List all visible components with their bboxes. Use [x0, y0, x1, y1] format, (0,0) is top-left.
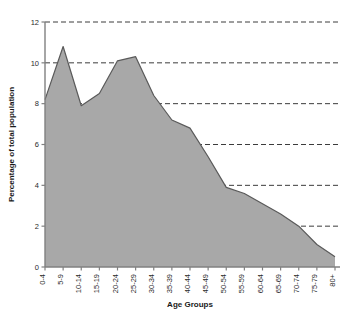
y-tick-label-10: 10 [31, 59, 39, 68]
x-tick-label-15: 75-79 [310, 274, 319, 293]
x-tick-label-16: 80+ [328, 273, 337, 286]
y-tick-label-8: 8 [35, 99, 39, 108]
x-tick-label-0: 0-4 [38, 274, 47, 285]
y-tick-label-12: 12 [31, 18, 39, 27]
x-tick-label-12: 60-64 [256, 274, 265, 293]
y-tick-label-0: 0 [35, 263, 39, 272]
x-tick-label-7: 35-39 [165, 274, 174, 293]
y-axis-title: Percentage of total population [7, 87, 16, 202]
x-tick-label-13: 65-69 [274, 274, 283, 293]
x-tick-label-6: 30-34 [147, 274, 156, 293]
x-tick-label-5: 25-29 [129, 274, 138, 293]
x-axis-title: Age Groups [167, 300, 213, 309]
y-tick-label-6: 6 [35, 140, 39, 149]
y-tick-label-2: 2 [35, 222, 39, 231]
chart-canvas: 0246810120-45-910-1415-1920-2425-2930-34… [0, 0, 360, 322]
x-tick-label-4: 20-24 [111, 274, 120, 293]
x-tick-label-11: 55-59 [237, 274, 246, 293]
x-tick-label-1: 5-9 [56, 274, 65, 285]
series-area-fill [45, 47, 335, 268]
y-tick-label-4: 4 [35, 181, 39, 190]
x-tick-label-3: 15-19 [92, 274, 101, 293]
x-tick-label-14: 70-74 [292, 274, 301, 293]
x-tick-label-2: 10-14 [74, 274, 83, 293]
x-tick-label-9: 45-49 [201, 274, 210, 293]
x-tick-label-10: 50-54 [219, 274, 228, 293]
x-tick-label-8: 40-44 [183, 274, 192, 293]
area-chart: 0246810120-45-910-1415-1920-2425-2930-34… [0, 0, 360, 322]
